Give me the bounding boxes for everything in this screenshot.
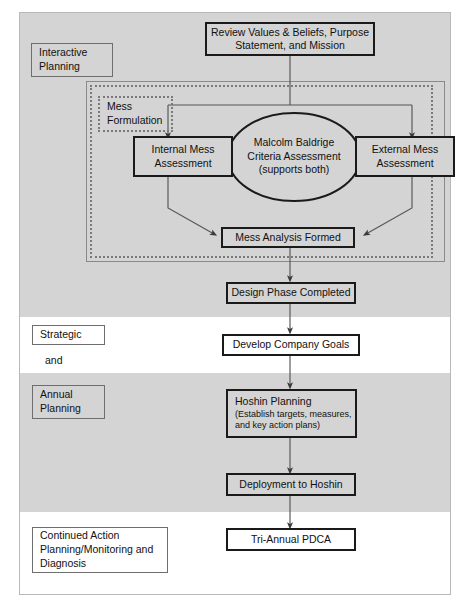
node-line: Malcolm Baldrige <box>229 136 359 150</box>
label-interactive-planning: Interactive Planning <box>31 43 113 77</box>
node-deployment-to-hoshin[interactable]: Deployment to Hoshin <box>226 473 356 496</box>
label-line: Formulation <box>107 114 171 128</box>
node-develop-company-goals[interactable]: Develop Company Goals <box>222 334 360 356</box>
node-hoshin-planning[interactable]: Hoshin Planning (Establish targets, meas… <box>226 389 357 438</box>
node-line: (Establish targets, measures, <box>235 409 352 421</box>
label-line: Strategic <box>40 328 104 342</box>
label-line: Planning/Monitoring and <box>40 543 167 557</box>
node-line: Tri-Annual PDCA <box>251 533 331 546</box>
node-line: Assessment <box>154 157 211 170</box>
node-line: External Mess <box>372 143 439 156</box>
label-line: Planning <box>40 402 104 416</box>
label-mess-formulation: Mess Formulation <box>98 96 173 132</box>
node-line: Assessment <box>376 157 433 170</box>
label-annual-planning: Annual Planning <box>32 385 105 419</box>
node-malcolm-baldrige[interactable]: Malcolm Baldrige Criteria Assessment (su… <box>229 136 359 177</box>
label-line: Diagnosis <box>40 557 167 571</box>
node-line: Criteria Assessment <box>229 150 359 164</box>
label-line: Continued Action <box>40 529 167 543</box>
node-line: Review Values & Beliefs, Purpose <box>211 26 369 39</box>
label-line: Annual <box>40 388 104 402</box>
node-line: and key action plans) <box>235 420 320 432</box>
label-continued-action: Continued Action Planning/Monitoring and… <box>32 527 168 573</box>
label-line: Planning <box>39 60 112 74</box>
node-line: Deployment to Hoshin <box>239 478 342 491</box>
node-external-mess-assessment[interactable]: External Mess Assessment <box>355 136 455 177</box>
diagram-canvas: Interactive Planning Strategic and Annua… <box>0 0 470 614</box>
node-mess-analysis-formed[interactable]: Mess Analysis Formed <box>221 227 355 248</box>
label-strategic: Strategic <box>32 325 105 345</box>
node-design-phase-completed[interactable]: Design Phase Completed <box>226 282 356 304</box>
node-line: Develop Company Goals <box>233 338 350 351</box>
label-line: Mess <box>107 100 171 114</box>
node-review-values[interactable]: Review Values & Beliefs, Purpose Stateme… <box>205 22 375 56</box>
node-line: (supports both) <box>229 163 359 177</box>
node-title: Hoshin Planning <box>235 395 311 408</box>
node-tri-annual-pdca[interactable]: Tri-Annual PDCA <box>226 528 356 551</box>
node-internal-mess-assessment[interactable]: Internal Mess Assessment <box>133 136 233 177</box>
label-and: and <box>45 354 63 366</box>
label-line: Interactive <box>39 46 112 60</box>
node-line: Mess Analysis Formed <box>235 231 341 244</box>
node-line: Statement, and Mission <box>235 39 345 52</box>
node-line: Design Phase Completed <box>231 286 350 299</box>
node-line: Internal Mess <box>151 143 214 156</box>
